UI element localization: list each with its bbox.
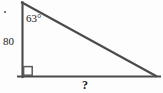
triangle-hypotenuse [22, 3, 156, 77]
apex-angle-label: 63° [26, 13, 41, 24]
base-unknown-label: ? [82, 79, 88, 91]
geometry-figure: 63° 80 ? [0, 0, 163, 93]
stray-dot-artifact [4, 11, 6, 13]
vertical-leg-length-label: 80 [3, 36, 14, 47]
right-angle-marker [24, 67, 33, 76]
